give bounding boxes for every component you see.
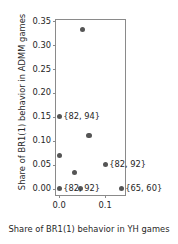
x-tick-label: 0.0	[47, 200, 71, 210]
y-tick-label: 0.25	[33, 64, 51, 74]
y-tick-mark	[53, 93, 56, 94]
y-tick-mark	[53, 189, 56, 190]
y-tick-mark	[53, 21, 56, 22]
data-point	[57, 186, 62, 191]
y-axis-label: Share of BR1(1) behavior in ADMM games	[17, 7, 27, 197]
x-tick-mark	[105, 195, 106, 198]
x-tick-label: 0.1	[93, 200, 117, 210]
y-tick-label: 0.05	[33, 159, 51, 169]
y-tick-mark	[53, 165, 56, 166]
data-point	[80, 27, 85, 32]
y-tick-label: 0.35	[33, 16, 51, 26]
data-point	[86, 133, 91, 138]
y-tick-mark	[53, 117, 56, 118]
data-point	[103, 162, 108, 167]
y-tick-mark	[53, 45, 56, 46]
point-annotation: {82, 94}	[63, 112, 100, 120]
point-annotation: {82, 92}	[109, 160, 146, 168]
point-annotation: {65, 60}	[125, 184, 162, 192]
plot-area: 0.000.050.100.150.200.250.300.35 0.00.1 …	[55, 19, 126, 196]
data-point	[57, 114, 62, 119]
x-tick-mark	[59, 195, 60, 198]
scatter-chart-figure: Share of BR1(1) behavior in ADMM games 0…	[0, 0, 178, 244]
y-tick-label: 0.00	[33, 183, 51, 193]
y-tick-label: 0.20	[33, 87, 51, 97]
data-point	[72, 170, 77, 175]
y-tick-mark	[53, 141, 56, 142]
point-annotation: {82, 92}	[63, 184, 100, 192]
y-tick-label: 0.30	[33, 40, 51, 50]
x-axis-label: Share of BR1(1) behavior in YH games	[0, 224, 178, 234]
data-point	[119, 186, 124, 191]
y-tick-mark	[53, 69, 56, 70]
y-tick-label: 0.15	[33, 111, 51, 121]
y-tick-label: 0.10	[33, 135, 51, 145]
data-point	[57, 153, 62, 158]
